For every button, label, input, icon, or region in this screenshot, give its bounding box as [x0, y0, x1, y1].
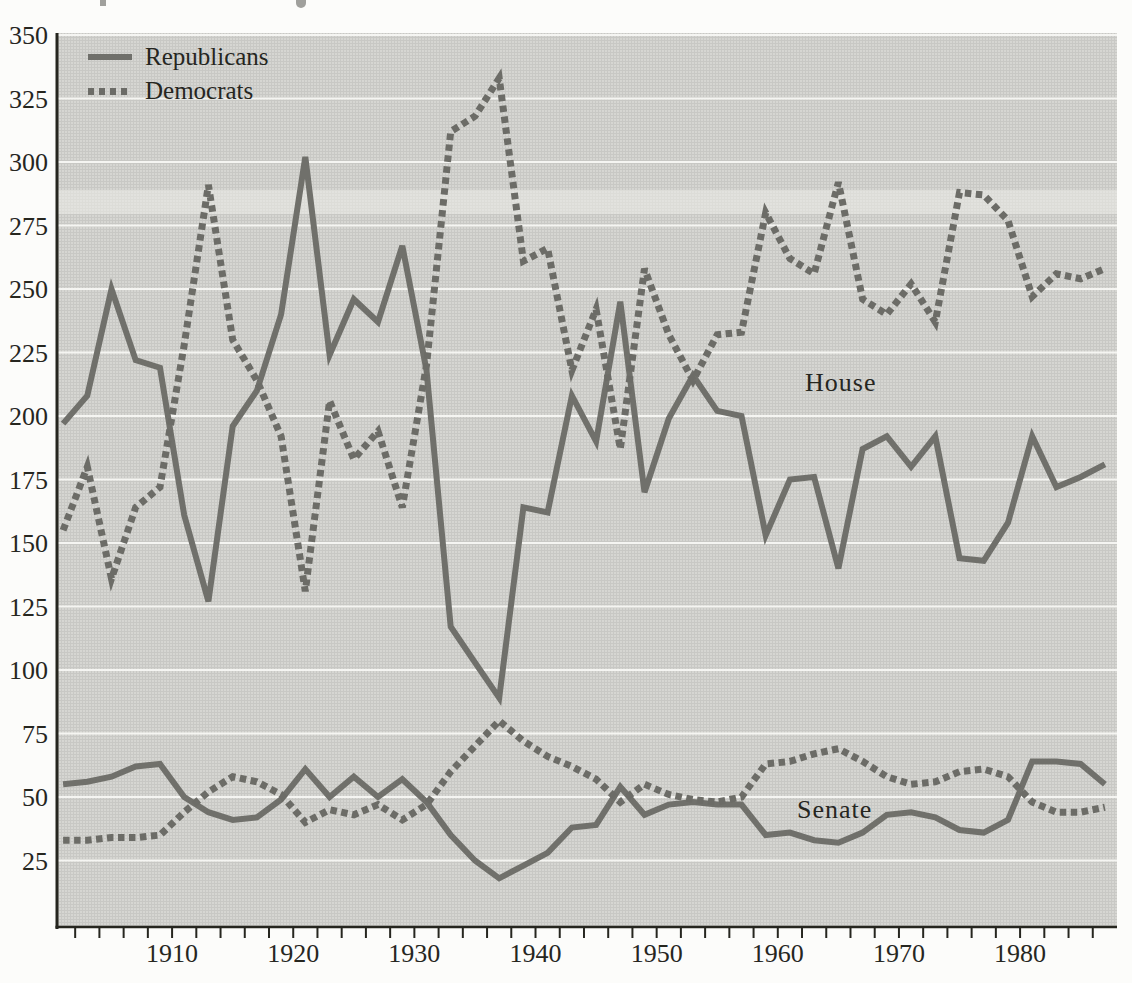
democrats-line-swatch: [88, 88, 132, 95]
senate-annotation: Senate: [797, 795, 872, 825]
y-tick-label: 250: [9, 275, 48, 304]
y-tick-label: 125: [9, 593, 48, 622]
y-tick-label: 175: [9, 466, 48, 495]
x-tick-label: 1980: [994, 939, 1046, 968]
y-tick-label: 350: [9, 21, 48, 50]
x-tick-label: 1970: [873, 939, 925, 968]
x-tick-label: 1910: [146, 939, 198, 968]
chart-figure: 1910192019301940195019601970198025507510…: [0, 0, 1132, 983]
x-tick-label: 1950: [631, 939, 683, 968]
y-tick-label: 100: [9, 656, 48, 685]
house-annotation: House: [805, 368, 876, 398]
legend-row-republicans: Republicans: [88, 42, 328, 72]
x-tick-label: 1930: [388, 939, 440, 968]
legend-republicans-label: Republicans: [145, 42, 269, 72]
x-tick-label: 1960: [752, 939, 804, 968]
y-tick-label: 275: [9, 212, 48, 241]
legend: Republicans Democrats: [88, 42, 328, 110]
y-tick-label: 225: [9, 339, 48, 368]
y-tick-label: 300: [9, 148, 48, 177]
congress-seats-chart: 1910192019301940195019601970198025507510…: [0, 0, 1132, 983]
x-tick-label: 1920: [267, 939, 319, 968]
y-tick-label: 200: [9, 402, 48, 431]
x-tick-label: 1940: [510, 939, 562, 968]
y-tick-label: 50: [22, 783, 48, 812]
y-tick-label: 325: [9, 85, 48, 114]
y-tick-label: 150: [9, 529, 48, 558]
legend-row-democrats: Democrats: [88, 76, 328, 106]
republicans-line-swatch: [88, 54, 132, 60]
y-tick-label: 25: [22, 847, 48, 876]
legend-democrats-label: Democrats: [145, 76, 253, 106]
y-tick-label: 75: [22, 720, 48, 749]
